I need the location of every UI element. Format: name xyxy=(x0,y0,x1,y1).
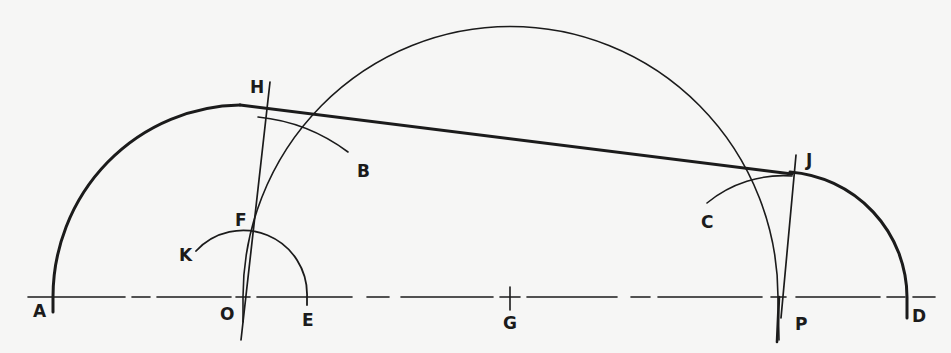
label-H: H xyxy=(250,77,264,97)
arc-C xyxy=(707,176,792,203)
line-PJ xyxy=(781,155,796,318)
label-F: F xyxy=(235,210,247,230)
semicircle-G xyxy=(243,26,779,340)
label-P: P xyxy=(795,314,807,334)
label-O: O xyxy=(220,304,234,324)
label-A: A xyxy=(33,301,47,321)
arc-B xyxy=(258,117,348,152)
arc-A-tangent xyxy=(53,105,240,312)
label-C: C xyxy=(701,212,713,232)
arc-J-D xyxy=(790,172,907,318)
label-J: J xyxy=(805,150,812,170)
construction-diagram: A O E G P D H B F K J C xyxy=(0,0,951,353)
label-B: B xyxy=(357,161,370,181)
label-K: K xyxy=(179,245,193,265)
label-G: G xyxy=(503,313,517,333)
label-E: E xyxy=(302,310,314,330)
center-mark-G xyxy=(500,287,520,310)
label-D: D xyxy=(912,306,926,326)
diagram-canvas: A O E G P D H B F K J C xyxy=(0,0,951,353)
